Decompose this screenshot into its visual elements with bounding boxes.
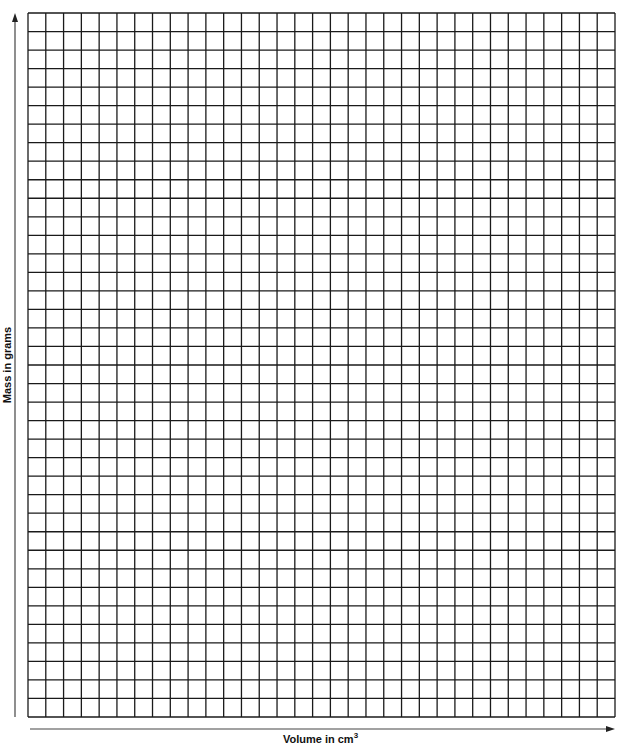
grid-lines [28,13,615,717]
y-axis-label: Mass in grams [1,327,13,403]
x-axis-label-text: Volume in cm [283,733,354,744]
graph-paper-chart [0,0,617,744]
x-axis-label-superscript: 3 [354,731,358,740]
y-axis-label-container: Mass in grams [0,13,14,717]
x-axis-label: Volume in cm3 [0,731,617,744]
